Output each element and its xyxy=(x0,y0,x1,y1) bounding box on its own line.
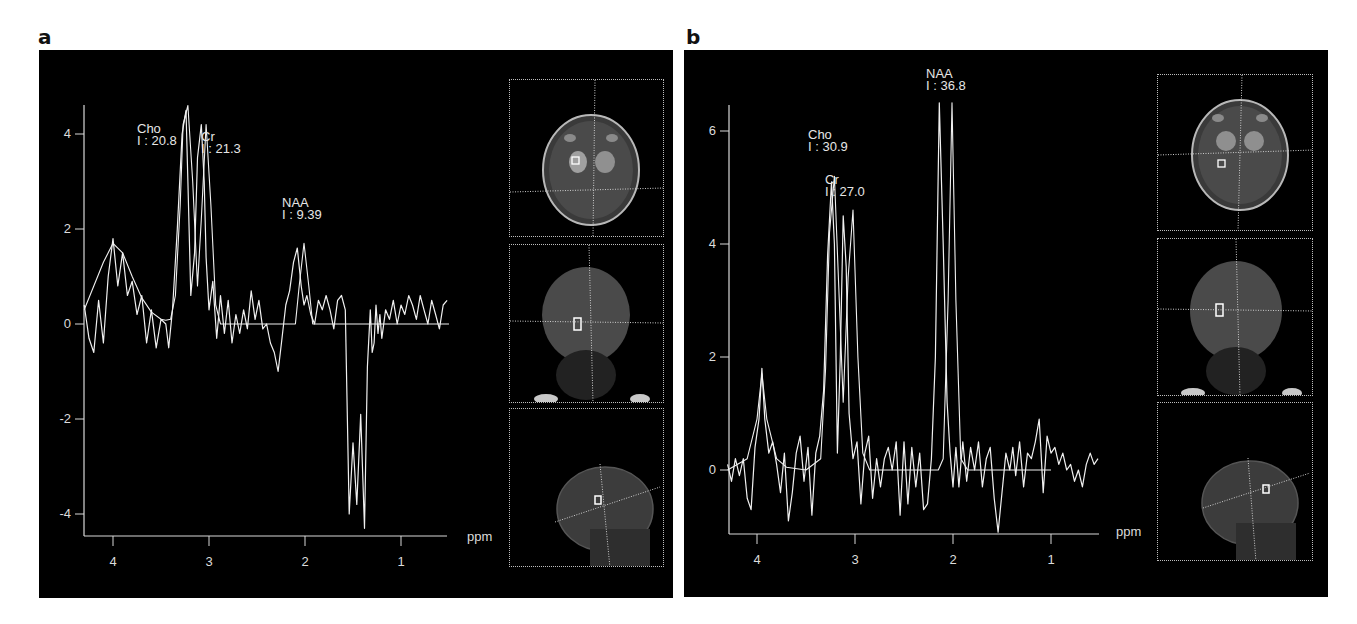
panel-letter-b: b xyxy=(686,27,700,47)
x-tick-label: 1 xyxy=(397,554,404,569)
coronal-brain-icon xyxy=(1158,239,1313,396)
y-tick-label: 6 xyxy=(709,123,716,138)
x-tick-label: 3 xyxy=(851,552,858,567)
y-tick-label: 4 xyxy=(64,126,71,141)
coronal-mri-thumbnail[interactable] xyxy=(1157,238,1313,396)
coronal-brain-icon xyxy=(510,245,664,403)
svg-text:I : 20.8: I : 20.8 xyxy=(137,133,177,148)
y-tick-label: 4 xyxy=(709,236,716,251)
peak-label-cr: CrI : 27.0 xyxy=(825,172,865,199)
peak-label-cho: ChoI : 20.8 xyxy=(137,121,177,148)
svg-text:I : 21.3: I : 21.3 xyxy=(201,141,241,156)
svg-text:I : 30.9: I : 30.9 xyxy=(808,139,848,154)
sagittal-mri-thumbnail[interactable] xyxy=(509,408,664,567)
x-tick-label: 1 xyxy=(1047,552,1054,567)
y-tick-label: 2 xyxy=(64,221,71,236)
peak-label-naa: NAAI : 9.39 xyxy=(282,195,322,222)
sagittal-mri-thumbnail[interactable] xyxy=(1157,402,1313,561)
spectrum-panel-b: 64204321ppmChoI : 30.9CrI : 27.0NAAI : 3… xyxy=(684,50,1328,597)
y-tick-label: 2 xyxy=(709,349,716,364)
x-tick-label: 3 xyxy=(205,554,212,569)
svg-text:I : 27.0: I : 27.0 xyxy=(825,184,865,199)
fitted-curve xyxy=(728,103,1051,470)
peak-label-cho: ChoI : 30.9 xyxy=(808,127,848,154)
x-tick-label: 4 xyxy=(109,554,116,569)
x-tick-label: 4 xyxy=(753,552,760,567)
x-axis-unit-label: ppm xyxy=(1116,524,1141,539)
x-tick-label: 2 xyxy=(949,552,956,567)
sagittal-head-icon xyxy=(1158,403,1313,561)
spectrum-panel-a: 420-2-44321ppmChoI : 20.8CrI : 21.3NAAI … xyxy=(39,50,673,598)
y-tick-label: 0 xyxy=(709,462,716,477)
spectrum-trace xyxy=(728,103,1098,532)
svg-text:I : 36.8: I : 36.8 xyxy=(926,78,966,93)
axial-brain-icon xyxy=(510,80,664,237)
y-tick-label: 0 xyxy=(64,316,71,331)
x-tick-label: 2 xyxy=(301,554,308,569)
y-tick-label: -4 xyxy=(59,506,71,521)
peak-label-naa: NAAI : 36.8 xyxy=(926,66,966,93)
axial-mri-thumbnail[interactable] xyxy=(1157,74,1313,231)
sagittal-head-icon xyxy=(510,409,664,567)
axial-mri-thumbnail[interactable] xyxy=(509,79,664,237)
axial-brain-icon xyxy=(1158,75,1313,231)
spectrum-trace xyxy=(84,110,447,528)
y-tick-label: -2 xyxy=(59,411,71,426)
svg-text:I : 9.39: I : 9.39 xyxy=(282,207,322,222)
panel-letter-a: a xyxy=(38,27,52,47)
x-axis-unit-label: ppm xyxy=(467,529,492,544)
peak-label-cr: CrI : 21.3 xyxy=(201,129,241,156)
coronal-mri-thumbnail[interactable] xyxy=(509,244,664,403)
